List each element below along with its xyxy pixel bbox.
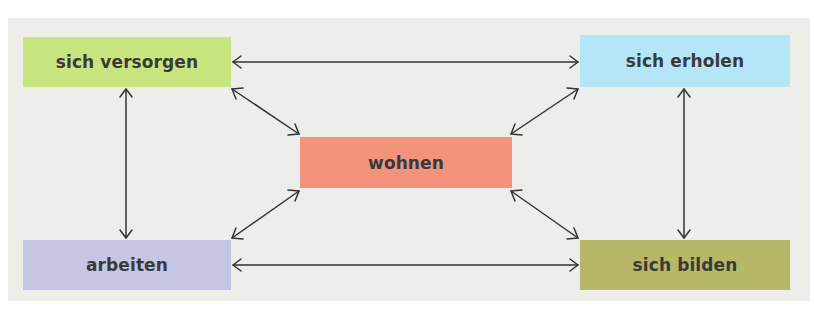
node-sich-bilden: sich bilden [580, 240, 790, 290]
node-arbeiten: arbeiten [23, 240, 231, 290]
node-label: sich erholen [626, 51, 744, 71]
node-label: sich versorgen [56, 52, 198, 72]
node-sich-erholen: sich erholen [580, 35, 790, 87]
node-label: wohnen [368, 153, 444, 173]
node-wohnen: wohnen [300, 137, 512, 188]
node-label: sich bilden [633, 255, 738, 275]
node-sich-versorgen: sich versorgen [23, 37, 231, 87]
node-label: arbeiten [86, 255, 168, 275]
